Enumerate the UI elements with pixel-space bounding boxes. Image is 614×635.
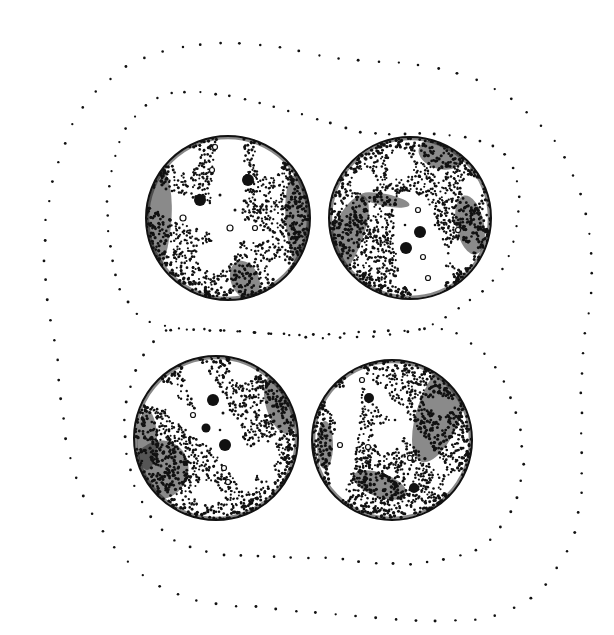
stipple-dot xyxy=(279,454,281,456)
stipple-dot xyxy=(274,202,276,204)
stipple-dot xyxy=(266,430,268,432)
stipple-dot xyxy=(241,257,243,259)
stipple-dot xyxy=(453,165,456,168)
stipple-dot xyxy=(445,222,447,224)
stipple-dot xyxy=(376,221,379,224)
stipple-dot xyxy=(479,206,482,209)
stipple-dot xyxy=(256,173,259,176)
stipple-dot xyxy=(328,454,331,457)
stipple-dot xyxy=(168,486,171,489)
stipple-dot xyxy=(400,179,402,181)
stipple-dot xyxy=(189,484,191,486)
stipple-dot xyxy=(265,211,267,213)
envelope-dot xyxy=(279,46,282,49)
stipple-dot xyxy=(213,273,215,275)
stipple-dot xyxy=(386,375,388,377)
stipple-dot xyxy=(153,409,155,411)
stipple-dot xyxy=(202,512,205,515)
stipple-dot xyxy=(364,241,366,243)
stipple-dot xyxy=(367,450,369,452)
stipple-dot xyxy=(386,416,388,418)
stipple-dot xyxy=(349,218,352,221)
stipple-dot xyxy=(384,164,386,166)
stipple-dot xyxy=(442,180,444,182)
stipple-dot xyxy=(161,478,164,481)
stipple-dot xyxy=(386,196,389,199)
stipple-dot xyxy=(194,470,196,472)
stipple-dot xyxy=(241,424,244,427)
envelope-dot xyxy=(579,193,582,196)
stipple-dot xyxy=(285,175,287,177)
stipple-dot xyxy=(144,449,147,452)
envelope-dot xyxy=(307,557,310,560)
stipple-dot xyxy=(386,242,389,245)
stipple-dot xyxy=(253,170,256,173)
stipple-dot xyxy=(389,272,391,274)
stipple-dot xyxy=(183,474,186,477)
stipple-dot xyxy=(449,187,451,189)
stipple-dot xyxy=(271,222,273,224)
stipple-dot xyxy=(205,467,208,470)
stipple-dot xyxy=(381,149,384,152)
vacuole-ring xyxy=(210,168,215,173)
stipple-dot xyxy=(393,255,395,257)
stipple-dot xyxy=(430,160,433,163)
stipple-dot xyxy=(442,238,444,240)
stipple-dot xyxy=(157,412,159,414)
stipple-dot xyxy=(265,481,267,483)
stipple-dot xyxy=(353,222,356,225)
stipple-dot xyxy=(357,243,360,246)
envelope-dot xyxy=(173,539,175,541)
stipple-dot xyxy=(254,150,256,152)
stipple-dot xyxy=(444,176,447,179)
stipple-dot xyxy=(211,505,214,508)
stipple-dot xyxy=(277,470,279,472)
stipple-dot xyxy=(259,224,261,226)
stipple-dot xyxy=(413,160,416,163)
stipple-dot xyxy=(324,429,327,432)
stipple-dot xyxy=(429,166,431,168)
envelope-dot xyxy=(118,288,121,291)
stipple-dot xyxy=(465,213,468,216)
stipple-dot xyxy=(193,407,195,409)
stipple-dot xyxy=(385,219,388,222)
stipple-dot xyxy=(367,218,370,221)
stipple-dot xyxy=(244,434,247,437)
stipple-dot xyxy=(333,210,336,213)
stipple-dot xyxy=(396,458,398,460)
stipple-dot xyxy=(181,429,183,431)
stipple-dot xyxy=(236,497,238,499)
stipple-dot xyxy=(416,188,418,190)
stipple-dot xyxy=(440,392,443,395)
stipple-dot xyxy=(186,242,189,245)
stipple-dot xyxy=(379,460,381,462)
stipple-dot xyxy=(352,219,355,222)
stipple-dot xyxy=(280,208,282,210)
stipple-dot xyxy=(372,373,374,375)
stipple-dot xyxy=(346,233,349,236)
stipple-dot xyxy=(292,253,295,256)
stipple-dot xyxy=(196,479,198,481)
stipple-dot xyxy=(356,457,359,460)
stipple-dot xyxy=(457,175,459,177)
stipple-dot xyxy=(444,435,447,438)
stipple-dot xyxy=(290,175,293,178)
dotted-envelopes xyxy=(43,42,593,623)
stipple-dot xyxy=(192,186,194,188)
stipple-dot xyxy=(171,427,173,429)
envelope-dot xyxy=(177,593,180,596)
stipple-dot xyxy=(347,228,350,231)
stipple-dot xyxy=(452,456,454,458)
stipple-dot xyxy=(257,268,259,270)
stipple-dot xyxy=(257,186,259,188)
stipple-dot xyxy=(256,212,258,214)
stipple-dot xyxy=(183,471,186,474)
stipple-dot xyxy=(424,487,426,489)
stipple-dot xyxy=(287,444,290,447)
stipple-dot xyxy=(373,492,376,495)
stipple-dot xyxy=(395,259,397,261)
stipple-dot xyxy=(365,488,368,491)
stipple-dot xyxy=(219,385,222,388)
envelope-dot xyxy=(426,561,429,564)
stipple-dot xyxy=(364,494,366,496)
